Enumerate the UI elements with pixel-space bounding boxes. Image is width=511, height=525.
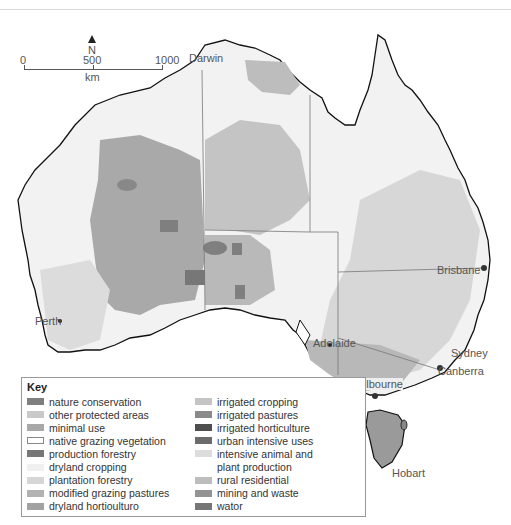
scale-tick-mark [24,65,25,69]
city-dot-brisbane [481,265,487,271]
scale-bar [24,69,163,70]
legend-item: intensive animal and [195,447,313,460]
city-label-sydney: Sydney [451,347,488,359]
legend-item: plantation forestry [27,474,169,487]
legend-label: dryland hortioulturo [49,500,139,512]
north-arrow: N [87,35,97,56]
city-label-canberra: Canberra [438,365,484,377]
legend-swatch [27,437,44,444]
conservation-patch [117,179,137,191]
legend-swatch [27,490,44,497]
legend-item: irrigated horticulture [195,421,313,434]
legend-label: irrigated pastures [217,409,298,421]
legend-item: irrigated cropping [195,395,313,408]
legend-label: rural residential [217,474,289,486]
legend-item: dryland cropping [27,460,169,473]
legend-label: intensive animal and [217,448,313,460]
flinders-island [401,420,407,430]
city-label-perth: Perth [35,315,61,327]
legend-swatch [195,411,212,418]
legend-swatch [195,503,212,510]
legend-item: wator [195,500,313,513]
legend-swatch [195,424,212,431]
legend-label: production forestry [49,448,136,460]
legend-label: mining and waste [217,487,299,499]
legend-swatch [195,437,212,444]
city-label-adelaide: Adelaide [313,337,356,349]
legend-swatch [195,450,212,457]
legend-label: irrigated horticulture [217,422,310,434]
legend-column-right: irrigated cropping irrigated pastures ir… [195,395,313,513]
tasmania [366,410,405,468]
legend-item: urban intensive uses [195,434,313,447]
legend-label: nature conservation [49,396,141,408]
legend-swatch [27,398,44,405]
legend-item: dryland hortioulturo [27,500,169,513]
legend-swatch [27,424,44,431]
scale-tick-mark [93,65,94,69]
conservation-patch [185,270,205,285]
legend-item: nature conservation [27,395,169,408]
legend-item-continuation: plant production [195,460,313,473]
legend-item: rural residential [195,474,313,487]
legend-key: Key nature conservation other protected … [21,377,366,517]
legend-swatch [195,477,212,484]
legend-label: urban intensive uses [217,435,313,447]
scale-tick-1000: 1000 [155,54,179,66]
scale-unit: km [85,71,100,83]
city-label-brisbane: Brisbane [437,264,480,276]
city-label-darwin: Darwin [189,52,223,64]
legend-label: dryland cropping [49,461,127,473]
legend-swatch [195,490,212,497]
legend-column-left: nature conservation other protected area… [27,395,169,513]
city-label-hobart: Hobart [392,467,425,479]
legend-item: other protected areas [27,408,169,421]
legend-label: wator [217,500,243,512]
legend-swatch [27,477,44,484]
legend-item: mining and waste [195,487,313,500]
legend-title: Key [27,381,47,393]
legend-item: native grazing vegetation [27,434,169,447]
legend-item: modified grazing pastures [27,487,169,500]
conservation-patch [232,243,242,255]
legend-swatch [27,411,44,418]
legend-swatch [27,450,44,457]
legend-label: modified grazing pastures [49,487,169,499]
conservation-patch [235,285,245,299]
scale-tick-mark [162,65,163,69]
city-dot-melbourne [372,393,378,399]
legend-label: minimal use [49,422,105,434]
legend-swatch [27,464,44,471]
legend-label: plantation forestry [49,474,132,486]
legend-swatch-blank [195,464,212,471]
legend-label: plant production [217,461,292,473]
legend-label: native grazing vegetation [49,435,166,447]
legend-label: other protected areas [49,409,149,421]
north-arrow-icon [88,35,96,43]
legend-swatch [195,398,212,405]
legend-item: irrigated pastures [195,408,313,421]
legend-item: production forestry [27,447,169,460]
legend-label: irrigated cropping [217,396,298,408]
legend-item: minimal use [27,421,169,434]
conservation-patch [203,241,227,255]
conservation-patch [160,220,178,232]
legend-swatch [27,503,44,510]
